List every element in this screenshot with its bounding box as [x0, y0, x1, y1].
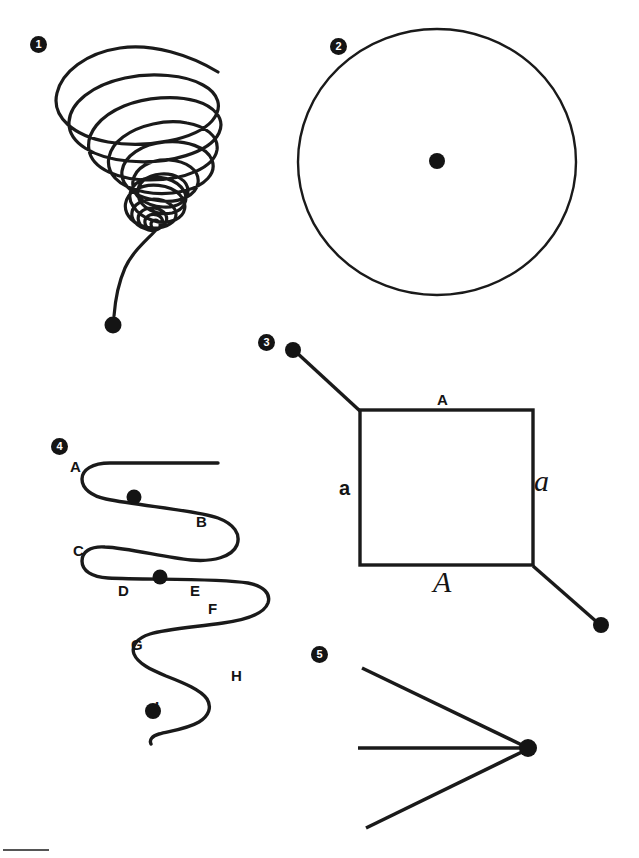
square-side-label-left: a: [339, 478, 350, 498]
figure-marker-4: 4: [51, 438, 68, 455]
square-side-label-top: A: [437, 392, 448, 407]
figures-canvas: [0, 0, 639, 858]
footer-rule: [3, 849, 49, 851]
figure-5-converging-lines: [358, 668, 537, 828]
figure-3-endpoint-dot-bottom-right: [593, 617, 609, 633]
curve-point-label-c: C: [73, 543, 84, 558]
figure-marker-3: 3: [258, 334, 275, 351]
figure-4-serpentine-group: [82, 463, 269, 744]
figure-2-circle: [298, 29, 576, 295]
figure-sheet: 1 2 3 4 5 A a a A A B C D E F G H I: [0, 0, 639, 858]
square-side-label-right: a: [534, 466, 549, 496]
figure-marker-5: 5: [311, 646, 328, 663]
figure-5-line-upper: [362, 668, 524, 746]
figure-marker-1: 1: [30, 36, 47, 53]
curve-point-label-d: D: [118, 583, 129, 598]
figure-4-path-dot-1: [127, 490, 142, 505]
square-side-label-bottom: A: [433, 567, 451, 597]
curve-point-label-b: B: [196, 514, 207, 529]
figure-3-leader-line-top-left: [296, 352, 360, 411]
curve-point-label-f: F: [208, 601, 217, 616]
figure-4-path-dot-2: [153, 570, 168, 585]
figure-5-vertex-dot: [519, 739, 537, 757]
figure-1-endpoint-dot: [105, 317, 122, 334]
figure-3-leader-line-bottom-right: [533, 566, 598, 623]
curve-point-label-h: H: [231, 668, 242, 683]
figure-3-square-outline: [360, 410, 533, 565]
figure-2-center-dot: [429, 153, 445, 169]
curve-point-label-i: I: [155, 699, 159, 714]
figure-1-conical-spiral: [56, 47, 221, 334]
curve-point-label-a: A: [70, 459, 81, 474]
figure-marker-2: 2: [330, 38, 347, 55]
figure-5-line-lower: [366, 751, 524, 828]
curve-point-label-e: E: [190, 583, 200, 598]
figure-3-endpoint-dot-top-left: [285, 342, 301, 358]
curve-point-label-g: G: [131, 637, 143, 652]
